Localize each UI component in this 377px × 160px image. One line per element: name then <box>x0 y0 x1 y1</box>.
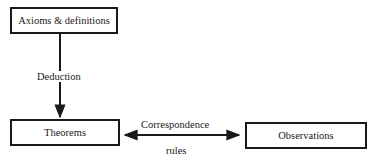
axioms-definitions-box: Axioms & definitions <box>10 7 118 34</box>
theorems-label: Theorems <box>44 127 86 138</box>
observations-label: Observations <box>278 130 333 141</box>
axioms-definitions-label: Axioms & definitions <box>18 15 110 26</box>
correspondence-label: Correspondence <box>141 119 209 130</box>
deduction-label: Deduction <box>36 71 82 82</box>
rules-label: rules <box>166 145 186 156</box>
theorems-box: Theorems <box>10 119 120 146</box>
observations-box: Observations <box>245 122 367 149</box>
